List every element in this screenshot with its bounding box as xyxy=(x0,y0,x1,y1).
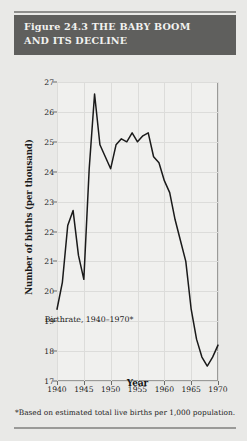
series-annotation: Birthrate, 1940–1970* xyxy=(30,315,148,324)
y-tick-label: 23 xyxy=(32,197,54,206)
figure-header-band: Figure 24.3 THE BABY BOOM AND ITS DECLIN… xyxy=(14,15,236,55)
y-tick-label: 18 xyxy=(32,347,54,356)
figure-title-line2: AND ITS DECLINE xyxy=(24,34,230,48)
x-tick-mark xyxy=(218,381,219,385)
y-tick-label: 27 xyxy=(32,78,54,87)
y-tick-label: 24 xyxy=(32,167,54,176)
y-tick-label: 26 xyxy=(32,107,54,116)
y-tick-label: 22 xyxy=(32,227,54,236)
figure-title: Figure 24.3 THE BABY BOOM AND ITS DECLIN… xyxy=(24,20,230,48)
y-tick-label: 21 xyxy=(32,257,54,266)
data-line xyxy=(57,94,218,366)
figure-footnote: *Based on estimated total live births pe… xyxy=(15,408,240,417)
bottom-divider xyxy=(14,427,236,429)
y-axis-title: Number of births (per thousand) xyxy=(24,122,34,312)
plot-outer: 1718192021222324252627 19401945195019551… xyxy=(57,82,218,381)
y-tick-label: 20 xyxy=(32,287,54,296)
y-tick-label: 25 xyxy=(32,137,54,146)
figure-page: Figure 24.3 THE BABY BOOM AND ITS DECLIN… xyxy=(0,0,247,441)
gridline-vertical xyxy=(218,82,219,381)
top-divider xyxy=(14,11,236,13)
figure-title-line1: Figure 24.3 THE BABY BOOM xyxy=(24,21,191,32)
x-axis-title: Year xyxy=(57,378,218,388)
chart-container: Number of births (per thousand) 17181920… xyxy=(0,62,247,402)
birthrate-line-series xyxy=(57,82,218,381)
